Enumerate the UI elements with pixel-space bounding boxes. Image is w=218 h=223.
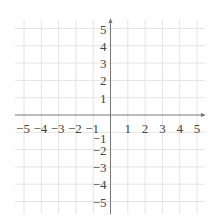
x-tick-label: −2 xyxy=(68,121,82,136)
y-tick-label: −5 xyxy=(93,195,107,210)
y-tick-label: 4 xyxy=(100,39,107,54)
x-tick-label: 2 xyxy=(142,121,149,136)
y-tick-label: −4 xyxy=(93,177,107,192)
coordinate-plane: −5−4−3−2−112345 54321−1−2−3−4−5 xyxy=(0,0,218,223)
y-axis-arrow-icon xyxy=(109,18,113,23)
x-tick-label: 3 xyxy=(159,121,166,136)
y-tick-label: 1 xyxy=(100,91,107,106)
x-tick-labels: −5−4−3−2−112345 xyxy=(16,121,200,136)
y-tick-label: 3 xyxy=(100,56,107,71)
y-tick-label: −3 xyxy=(93,160,107,175)
y-tick-label: −2 xyxy=(93,143,107,158)
x-tick-label: 1 xyxy=(125,121,132,136)
x-tick-label: 5 xyxy=(194,121,201,136)
x-axis-arrow-icon xyxy=(201,113,206,117)
x-tick-label: 4 xyxy=(176,121,183,136)
y-tick-label: 5 xyxy=(100,22,107,37)
x-tick-label: −5 xyxy=(16,121,30,136)
x-tick-label: −3 xyxy=(51,121,65,136)
x-tick-label: −4 xyxy=(33,121,47,136)
y-tick-label: 2 xyxy=(100,73,107,88)
